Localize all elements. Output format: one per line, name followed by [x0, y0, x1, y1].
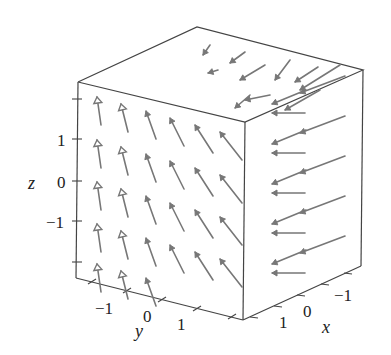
x-tick-0: 0: [303, 302, 312, 321]
y-tick-neg1: −1: [95, 299, 113, 318]
vector-field-plot: 1 0 −1 z −1 0 1 y 1 0 −1 x: [0, 0, 391, 355]
y-axis-label: y: [133, 321, 143, 341]
x-tick-1: 1: [279, 313, 288, 332]
y-tick-0: 0: [143, 307, 152, 326]
z-tick-neg1: −1: [46, 213, 64, 232]
z-tick-1: 1: [57, 131, 66, 150]
x-axis-label: x: [321, 317, 330, 337]
x-tick-neg1: −1: [334, 286, 352, 305]
z-axis-label: z: [27, 173, 35, 193]
y-tick-1: 1: [177, 315, 186, 334]
z-tick-0: 0: [57, 173, 66, 192]
vector-arrows: [94, 45, 345, 306]
